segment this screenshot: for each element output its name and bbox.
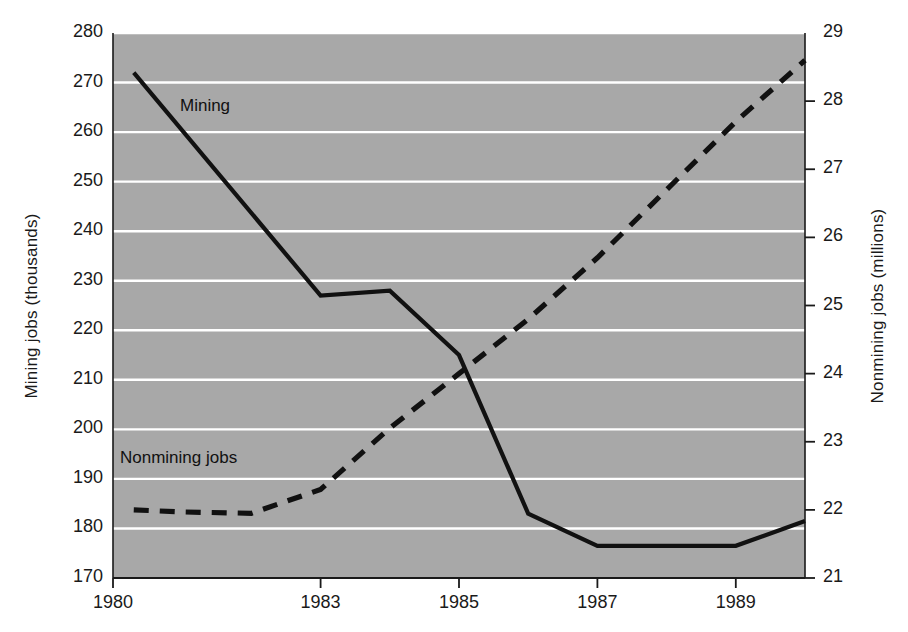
plot-canvas	[0, 0, 908, 632]
right-axis-tick-label: 28	[823, 89, 885, 110]
left-axis-tick-label: 280	[41, 21, 103, 42]
left-axis-tick-label: 210	[41, 368, 103, 389]
left-axis-tick-label: 200	[41, 417, 103, 438]
right-axis-tick-label: 26	[823, 225, 885, 246]
x-axis-tick-label: 1987	[557, 592, 637, 613]
right-axis-tick-label: 24	[823, 362, 885, 383]
right-axis-tick-label: 23	[823, 430, 885, 451]
x-axis-tick-label: 1980	[73, 592, 153, 613]
series-annotation-mining: Mining	[180, 96, 230, 116]
right-axis-tick-label: 22	[823, 498, 885, 519]
left-axis-tick-label: 230	[41, 269, 103, 290]
left-axis-tick-label: 260	[41, 120, 103, 141]
left-axis-tick-label: 270	[41, 71, 103, 92]
left-axis-tick-label: 240	[41, 219, 103, 240]
left-axis-tick-label: 250	[41, 170, 103, 191]
x-axis-tick-label: 1983	[281, 592, 361, 613]
left-axis-tick-label: 170	[41, 566, 103, 587]
right-axis-tick-label: 29	[823, 21, 885, 42]
series-annotation-nonmining: Nonmining jobs	[120, 448, 237, 468]
chart-figure: Mining jobs (thousands) Nonmining jobs (…	[0, 0, 908, 632]
x-axis-tick-label: 1989	[696, 592, 776, 613]
left-axis-tick-label: 220	[41, 318, 103, 339]
left-axis-tick-label: 190	[41, 467, 103, 488]
right-axis-tick-label: 21	[823, 566, 885, 587]
right-axis-tick-label: 25	[823, 294, 885, 315]
right-axis-tick-label: 27	[823, 157, 885, 178]
x-axis-tick-label: 1985	[419, 592, 499, 613]
left-axis-tick-label: 180	[41, 516, 103, 537]
